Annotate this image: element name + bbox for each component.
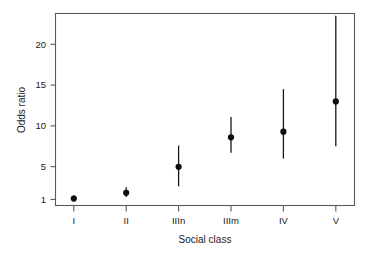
data-point-V [333,98,339,104]
x-axis-title: Social class [179,234,232,245]
data-point-IIIn [176,164,182,170]
x-ticklabel-IV: IV [279,215,289,226]
y-ticklabel-15: 15 [35,79,46,90]
y-axis-title: Odds ratio [16,86,27,133]
x-ticklabel-II: II [124,215,129,226]
y-ticklabel-5: 5 [41,161,46,172]
y-ticklabel-10: 10 [35,120,46,131]
odds-ratio-scatter-chart: 20 15 10 5 1 Odds ratio I II IIIn IIIm I… [0,0,365,254]
y-ticklabel-1: 1 [41,194,46,205]
data-point-IIIm [228,134,234,140]
x-ticklabel-V: V [333,215,340,226]
data-point-II [123,190,129,196]
x-ticklabel-IIIn: IIIn [172,215,185,226]
data-point-I [71,195,77,201]
x-ticklabel-IIIm: IIIm [223,215,239,226]
y-ticklabel-20: 20 [35,39,46,50]
figure-container: 20 15 10 5 1 Odds ratio I II IIIn IIIm I… [0,0,365,254]
data-point-IV [280,129,286,135]
x-ticklabel-I: I [72,215,75,226]
